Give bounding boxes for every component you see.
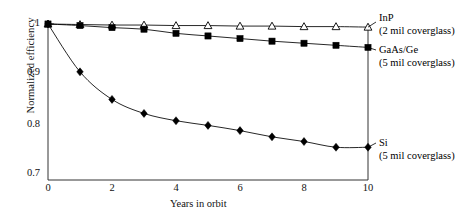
legend-item-si: Si (5 mil coverglass)	[379, 137, 455, 162]
data-point-diamond	[173, 117, 180, 125]
data-point-diamond	[237, 127, 244, 135]
legend-sublabel-si: (5 mil coverglass)	[379, 150, 455, 163]
y-tick-label-0-9: 0.9	[16, 66, 40, 77]
legend-item-inp: InP (2 mil coverglass)	[379, 12, 455, 37]
x-axis-title: Years in orbit	[170, 198, 227, 209]
data-point-square	[301, 40, 307, 46]
data-point-square	[77, 22, 83, 28]
data-point-diamond	[141, 109, 148, 117]
x-tick-label-0: 0	[38, 182, 58, 193]
data-point-square	[269, 38, 275, 44]
data-point-square	[333, 42, 339, 48]
data-point-diamond	[205, 121, 212, 129]
x-tick-label-4: 4	[166, 182, 186, 193]
series-layer	[44, 20, 372, 151]
data-point-triangle	[204, 22, 212, 29]
data-point-square	[141, 26, 147, 32]
data-point-diamond	[109, 95, 116, 103]
data-point-square	[109, 25, 115, 31]
legend-sublabel-gaas: (5 mil coverglass)	[379, 57, 455, 70]
data-point-square	[205, 33, 211, 39]
x-tick-label-8: 8	[294, 182, 314, 193]
series-si	[45, 20, 372, 151]
legend-item-gaas: GaAs/Ge (5 mil coverglass)	[379, 44, 455, 69]
data-point-square	[237, 35, 243, 41]
data-point-triangle	[268, 22, 276, 29]
legend-label-inp: InP	[379, 12, 455, 25]
data-point-diamond	[333, 143, 340, 151]
data-point-square	[173, 30, 179, 36]
legend-label-gaas: GaAs/Ge	[379, 44, 455, 57]
chart-figure: Normalized efficiency Years in orbit 1 0…	[0, 0, 460, 219]
y-tick-label-1: 1	[16, 17, 40, 28]
x-tick-label-10: 10	[358, 182, 378, 193]
legend-label-si: Si	[379, 137, 455, 150]
legend-leader-lines	[48, 22, 376, 147]
data-point-diamond	[269, 133, 276, 141]
legend-sublabel-inp: (2 mil coverglass)	[379, 25, 455, 38]
data-point-triangle	[332, 23, 340, 30]
series-inp	[44, 20, 372, 30]
x-tick-label-6: 6	[230, 182, 250, 193]
x-tick-label-2: 2	[102, 182, 122, 193]
y-tick-label-0-8: 0.8	[16, 118, 40, 129]
data-point-diamond	[301, 138, 308, 146]
y-tick-label-0-7: 0.7	[16, 167, 40, 178]
